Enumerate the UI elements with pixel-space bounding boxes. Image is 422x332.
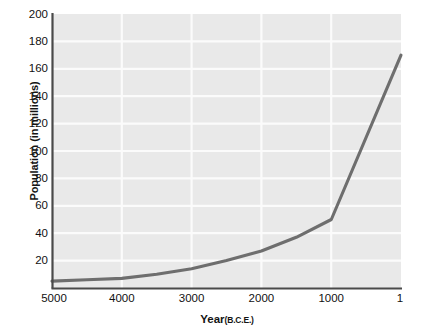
y-tick-label-20: 20 — [12, 255, 48, 267]
y-axis-title: Population (in millions) — [28, 41, 40, 241]
x-tick-label-5000: 5000 — [24, 292, 84, 305]
x-tick-label-4000: 4000 — [92, 292, 152, 305]
x-tick-label-3000: 3000 — [162, 292, 222, 305]
x-tick-label-1000: 1000 — [301, 292, 361, 305]
x-axis-title: Year(B.C.E.) — [52, 309, 402, 327]
x-axis-tick-labels: 5000 4000 3000 2000 1000 1 — [0, 292, 422, 310]
x-tick-label-2000: 2000 — [231, 292, 291, 305]
x-axis-title-sub: (B.C.E.) — [225, 315, 254, 325]
x-tick-label-1: 1 — [370, 292, 422, 305]
y-tick-label-200: 200 — [12, 9, 48, 21]
x-axis-title-main: Year — [200, 313, 224, 325]
population-line-chart: 200 180 160 140 120 100 80 60 40 20 Popu… — [0, 0, 422, 332]
chart-plot-area — [0, 0, 422, 332]
